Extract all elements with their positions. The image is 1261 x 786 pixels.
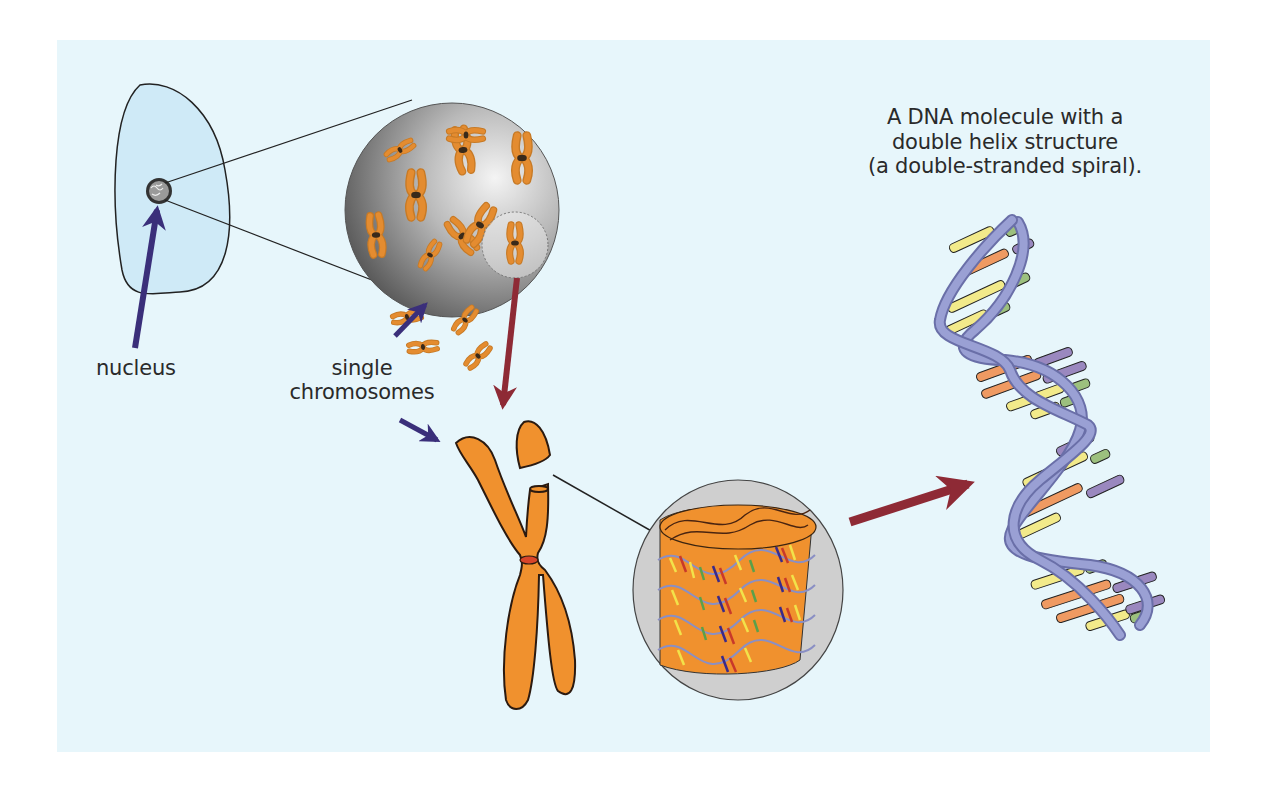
- zoom-to-helix-arrow: [850, 484, 968, 522]
- single-chromosomes-label-line1: single: [272, 356, 452, 380]
- chromatin-fiber: [633, 480, 843, 700]
- dna-caption-line2: double helix structure: [850, 130, 1160, 155]
- dna-double-helix: [940, 220, 1166, 635]
- single-chromosomes-label: single chromosomes: [272, 356, 452, 404]
- dna-caption-line1: A DNA molecule with a: [850, 105, 1160, 130]
- nucleus-label: nucleus: [96, 356, 176, 380]
- single-chromosomes-label-line2: chromosomes: [272, 380, 452, 404]
- chromosome-pointer-arrow: [400, 420, 437, 440]
- cell-outline: [115, 84, 230, 294]
- magnified-nucleus: [345, 103, 559, 369]
- chromosome-icon: [456, 421, 575, 709]
- dna-molecule-caption: A DNA molecule with a double helix struc…: [850, 105, 1160, 179]
- dna-caption-line3: (a double-stranded spiral).: [850, 154, 1160, 179]
